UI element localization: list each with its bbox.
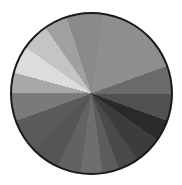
canvas [0, 0, 182, 185]
grayscale-segment-wheel [10, 12, 173, 175]
